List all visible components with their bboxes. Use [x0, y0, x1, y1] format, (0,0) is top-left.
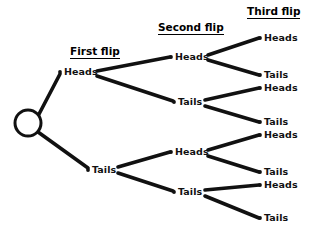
third-flip-outcome-heads-3: Heads [264, 83, 298, 93]
third-flip-outcome-tails-4: Tails [264, 117, 288, 127]
second-flip-outcome-tails-4: Tails [178, 187, 202, 197]
root-start-node [15, 110, 41, 136]
branch-tip-dot [258, 73, 262, 77]
column-header-1: First flip [70, 46, 120, 59]
branch-ht-to-tails [205, 106, 259, 122]
branch-tip-dot [258, 170, 262, 174]
branch-tip-dot [258, 216, 262, 220]
third-flip-outcome-tails-2: Tails [264, 70, 288, 80]
branch-th-to-tails [208, 156, 259, 172]
column-header-2: Second flip [158, 22, 224, 35]
branch-tip-dot [258, 120, 262, 124]
branch-lines [38, 38, 259, 218]
branch-root-to-tails [38, 132, 88, 168]
branch-tip-dot [258, 86, 262, 90]
branch-tip-dot [258, 36, 262, 40]
column-header-3: Third flip [247, 6, 300, 19]
third-flip-outcome-heads-7: Heads [264, 180, 298, 190]
second-flip-outcome-tails-2: Tails [178, 97, 202, 107]
first-flip-outcome-heads-1: Heads [64, 67, 98, 77]
branch-tip-dot [169, 150, 173, 154]
first-flip-outcome-tails-2: Tails [92, 165, 116, 175]
branch-heads-to-heads [97, 57, 170, 71]
coin-flip-tree-diagram: First flipSecond flipThird flip HeadsTai… [0, 0, 315, 237]
branch-tip-dot [58, 70, 62, 74]
branch-tt-to-tails [205, 196, 259, 218]
branch-tip-dot [258, 183, 262, 187]
second-flip-outcome-heads-3: Heads [175, 147, 209, 157]
branch-tails-to-heads [118, 152, 170, 167]
branch-tip-dot [169, 55, 173, 59]
branch-hh-to-heads [208, 38, 259, 55]
branch-heads-to-tails [97, 76, 173, 101]
third-flip-outcome-tails-8: Tails [264, 213, 288, 223]
branch-tip-dot [86, 168, 90, 172]
branch-th-to-heads [208, 135, 259, 150]
branch-tails-to-tails [118, 173, 173, 191]
branch-hh-to-tails [208, 60, 259, 75]
third-flip-outcome-heads-5: Heads [264, 130, 298, 140]
second-flip-outcome-heads-1: Heads [175, 52, 209, 62]
third-flip-outcome-heads-1: Heads [264, 33, 298, 43]
branch-ht-to-heads [205, 88, 259, 100]
branch-root-to-heads [38, 74, 60, 116]
branch-endpoint-dots [58, 36, 262, 220]
third-flip-outcome-tails-6: Tails [264, 167, 288, 177]
branch-tip-dot [172, 100, 176, 104]
branch-tip-dot [172, 190, 176, 194]
branch-tt-to-heads [205, 185, 259, 190]
branch-tip-dot [258, 133, 262, 137]
